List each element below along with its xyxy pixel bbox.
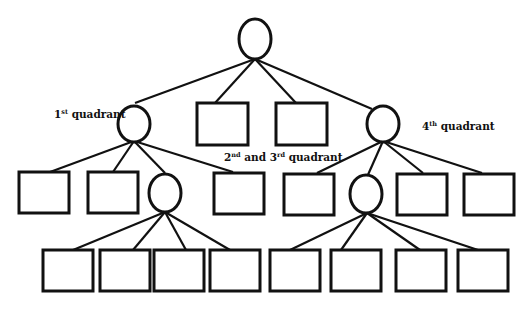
leaf-rect-2 bbox=[100, 250, 150, 291]
leaf-rect-4 bbox=[210, 250, 260, 291]
label-quadrant-1: 1st quadrant bbox=[54, 108, 126, 120]
q1-child-rect-2 bbox=[88, 172, 138, 213]
quadrant-2-node bbox=[197, 103, 248, 145]
leaf-rect-1 bbox=[43, 250, 93, 291]
quadrant-4-node bbox=[367, 106, 399, 142]
quadrant-tree-diagram: 1st quadrant 2nd and 3rd quadrant 4th qu… bbox=[0, 0, 532, 312]
q4-child-rect-1 bbox=[284, 174, 334, 215]
leaf-rect-7 bbox=[396, 250, 446, 291]
root-node bbox=[239, 19, 271, 59]
label-quadrant-4: 4th quadrant bbox=[422, 120, 495, 132]
q4-child-circle bbox=[350, 175, 382, 213]
q1-child-rect-3 bbox=[214, 173, 264, 214]
leaf-rect-5 bbox=[270, 250, 320, 291]
q1-child-circle bbox=[149, 174, 181, 212]
q4-child-rect-2 bbox=[397, 174, 447, 215]
quadrant-3-node bbox=[276, 103, 327, 145]
leaf-rect-6 bbox=[331, 250, 381, 291]
leaf-rect-3 bbox=[154, 250, 204, 291]
leaf-rect-8 bbox=[458, 250, 508, 291]
label-quadrant-2-and-3: 2nd and 3rd quadrant bbox=[224, 151, 343, 163]
q1-child-rect-1 bbox=[19, 172, 69, 213]
q4-child-rect-3 bbox=[464, 174, 514, 215]
